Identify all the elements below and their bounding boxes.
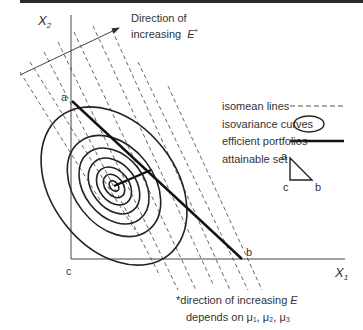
legend-attainable-triangle [290,158,312,180]
legend-triangle-c: c [283,182,289,193]
x-axis-label-text: X [335,265,344,280]
legend-isovariance-label: isovariance curves [222,119,313,130]
legend-efficient-label: efficient portfolios [222,136,307,147]
direction-label-symbol: E [187,28,194,40]
footnote-prefix: *direction of increasing [176,294,290,306]
direction-label-line1: Direction of [131,13,187,24]
legend-triangle-a: a [281,151,287,162]
portfolio-diagram [0,0,363,330]
direction-label-star: * [195,27,198,36]
direction-label-word: increasing [131,28,181,40]
x-axis-label: X1 [335,266,348,279]
efficient-portfolios [72,101,242,259]
point-b-label: b [246,247,252,258]
legend-triangle-b: b [315,182,321,193]
direction-label-line2: increasing E* [131,29,198,40]
legend-isomean-label: isomean lines [222,101,289,112]
x-axis-label-sub: 1 [344,273,348,282]
y-axis-label-text: X [38,13,47,28]
footnote-line1: *direction of increasing E [176,295,298,306]
footnote-line2: depends on μ₁, μ₂, μ₃ [186,312,290,323]
legend-attainable-label: attainable set [222,154,287,165]
direction-arrow [20,28,119,75]
y-axis-label: X2 [38,14,51,27]
point-a-label: a [61,92,67,103]
footnote-symbol: E [290,294,297,306]
y-axis-label-sub: 2 [47,21,51,30]
origin-label-c: c [66,266,72,277]
